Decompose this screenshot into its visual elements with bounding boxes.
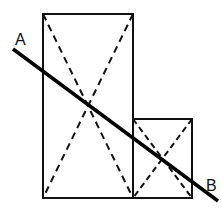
label-a: A bbox=[15, 31, 26, 48]
label-b: B bbox=[206, 177, 217, 194]
diagram-canvas: A B bbox=[0, 0, 222, 211]
